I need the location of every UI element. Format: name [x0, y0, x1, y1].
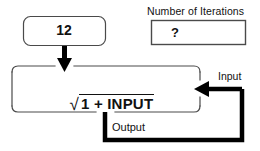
seed-value-text: 12 — [56, 23, 72, 37]
iteration-feedback-diagram: Number of Iterations ? 12 √1 + INPUT Inp… — [0, 0, 260, 151]
iterations-label: Number of Iterations — [147, 6, 244, 17]
radical-icon: √ — [69, 95, 79, 114]
seed-value: 12 — [0, 23, 260, 37]
input-label: Input — [218, 71, 241, 82]
input-arrow — [194, 81, 242, 97]
down-arrow — [57, 46, 72, 72]
output-label: Output — [112, 122, 145, 133]
process-formula: √1 + INPUT — [52, 79, 154, 127]
formula-radicand: 1 + INPUT — [79, 94, 154, 111]
